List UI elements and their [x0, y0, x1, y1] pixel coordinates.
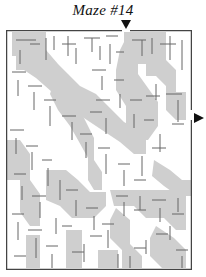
maze-title: Maze #14: [0, 2, 206, 19]
entrance-arrow-icon: [121, 20, 131, 29]
maze-grid[interactable]: [6, 30, 192, 270]
exit-arrow-icon: [194, 113, 204, 123]
maze-entrance-gap: [122, 30, 130, 32]
maze-exit-gap: [190, 110, 192, 120]
